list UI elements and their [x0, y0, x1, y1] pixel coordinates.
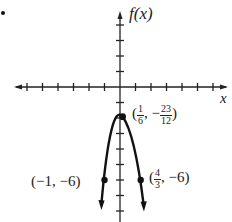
curve-left-arrow-icon — [98, 200, 104, 210]
point-right — [138, 177, 144, 183]
curve-right-arrow-icon — [141, 201, 147, 211]
right-point-label: (43, −6) — [149, 168, 189, 190]
vertex-x-fraction: 16 — [137, 104, 144, 126]
right-x-fraction: 43 — [154, 168, 161, 190]
x-axis-label: x — [220, 91, 227, 106]
parabola-curve — [101, 115, 143, 205]
point-left — [101, 177, 107, 183]
left-point-label: (−1, −6) — [31, 174, 80, 189]
x-axis-right-arrow-icon — [220, 85, 228, 90]
vertex-point — [119, 113, 126, 120]
x-axis — [14, 83, 228, 91]
vertex-label: (16, −2312) — [132, 104, 177, 126]
y-axis-label: f(x) — [129, 5, 153, 22]
vertex-y-fraction: 2312 — [160, 104, 172, 126]
x-axis-left-arrow-icon — [14, 85, 22, 90]
bullet-icon — [1, 11, 5, 15]
y-axis-up-arrow-icon — [118, 11, 123, 19]
